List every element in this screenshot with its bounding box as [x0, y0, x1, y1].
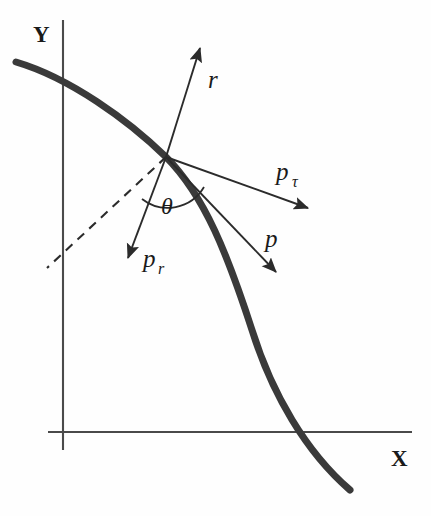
diagram-canvas: X Y θ rpτppr: [0, 0, 431, 516]
y-axis-label: Y: [33, 22, 50, 47]
theta-angle-label: θ: [161, 193, 173, 219]
vector-subscript-p-r: r: [158, 260, 165, 277]
trajectory-curve: [16, 62, 350, 490]
vector-label-p-r: p: [141, 245, 156, 272]
vector-label-p: p: [263, 225, 278, 252]
figure-root: X Y θ rpτppr: [0, 0, 431, 516]
vector-label-r: r: [208, 66, 218, 93]
vector-subscript-p-tau: τ: [292, 173, 299, 190]
vector-label-p-tau: p: [274, 158, 289, 185]
vector-arrow-r: [166, 48, 200, 157]
x-axis-label: X: [391, 446, 408, 471]
vector-arrow-p: [166, 157, 276, 272]
